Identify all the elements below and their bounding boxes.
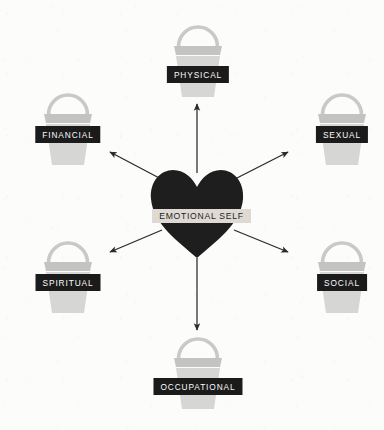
node-physical[interactable]: PHYSICAL	[152, 22, 244, 118]
center-node-emotional-self[interactable]: EMOTIONAL SELF	[149, 168, 245, 260]
node-sexual[interactable]: SEXUAL	[296, 90, 384, 186]
node-label-sexual: SEXUAL	[316, 126, 368, 143]
node-financial[interactable]: FINANCIAL	[22, 90, 114, 186]
node-label-physical: PHYSICAL	[167, 66, 229, 83]
node-label-social: SOCIAL	[317, 274, 367, 291]
node-label-occupational: OCCUPATIONAL	[153, 378, 242, 395]
bucket-icon	[170, 334, 226, 412]
node-social[interactable]: SOCIAL	[296, 238, 384, 334]
center-label-band: EMOTIONAL SELF	[152, 209, 251, 223]
node-occupational[interactable]: OCCUPATIONAL	[152, 334, 244, 430]
node-label-spiritual: SPIRITUAL	[36, 274, 101, 291]
node-label-financial: FINANCIAL	[35, 126, 100, 143]
center-label-text: EMOTIONAL SELF	[159, 212, 244, 221]
bucket-icon	[170, 22, 226, 100]
diagram-canvas: PHYSICAL FINANCIAL SEXUAL SPIRITUAL	[0, 0, 384, 430]
node-spiritual[interactable]: SPIRITUAL	[22, 238, 114, 334]
